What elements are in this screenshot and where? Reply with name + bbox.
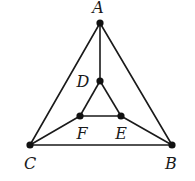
- label-b: B: [164, 154, 177, 173]
- vertex-a: [96, 19, 103, 26]
- label-f: F: [75, 124, 88, 143]
- edge-ac: [30, 23, 100, 145]
- vertex-f: [76, 112, 83, 119]
- edge-de: [100, 81, 121, 116]
- vertex-d: [96, 77, 103, 84]
- label-d: D: [76, 72, 90, 91]
- vertex-b: [168, 141, 175, 148]
- nodes-group: [26, 19, 175, 148]
- label-e: E: [114, 124, 127, 143]
- vertex-e: [117, 112, 124, 119]
- edge-ab: [100, 23, 172, 145]
- graph-diagram: ABCDEF: [0, 0, 195, 181]
- label-a: A: [90, 0, 104, 17]
- graph-svg: ABCDEF: [0, 0, 195, 181]
- label-c: C: [24, 154, 36, 173]
- vertex-c: [26, 141, 33, 148]
